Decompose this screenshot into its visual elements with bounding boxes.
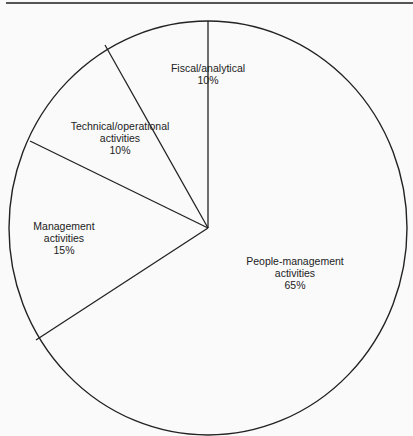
slice-percent: 10% <box>150 74 266 86</box>
slice-label-technical: Technical/operational activities 10% <box>60 120 180 156</box>
slice-percent: 15% <box>22 244 106 256</box>
slice-name: People-management <box>230 255 360 267</box>
slice-name: Management <box>22 220 106 232</box>
slice-percent: 65% <box>230 279 360 291</box>
slice-percent: 10% <box>60 144 180 156</box>
slice-label-management: Management activities 15% <box>22 220 106 256</box>
slice-name-line2: activities <box>230 267 360 279</box>
slice-name: Technical/operational <box>60 120 180 132</box>
slice-name-line2: activities <box>22 232 106 244</box>
slice-name-line2: activities <box>60 132 180 144</box>
slice-label-fiscal: Fiscal/analytical 10% <box>150 62 266 86</box>
slice-label-people-management: People-management activities 65% <box>230 255 360 291</box>
slice-name: Fiscal/analytical <box>150 62 266 74</box>
